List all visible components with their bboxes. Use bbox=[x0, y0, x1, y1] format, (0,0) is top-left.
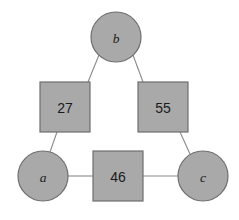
edge-55-to-c bbox=[180, 132, 190, 154]
weight-box-46[interactable]: 46 bbox=[93, 151, 143, 201]
node-a-label: a bbox=[40, 170, 47, 185]
weight-box-55-label: 55 bbox=[155, 100, 171, 116]
node-b[interactable]: b bbox=[91, 12, 141, 62]
edge-b-to-27 bbox=[88, 55, 99, 82]
weight-box-27[interactable]: 27 bbox=[40, 82, 90, 132]
diagram-canvas: b 27 55 a 46 c bbox=[0, 0, 239, 220]
node-c[interactable]: c bbox=[178, 151, 228, 201]
weight-box-55[interactable]: 55 bbox=[138, 82, 188, 132]
edge-27-to-a bbox=[50, 132, 57, 152]
edge-b-to-55 bbox=[133, 55, 143, 82]
weight-box-46-label: 46 bbox=[110, 169, 126, 185]
node-b-label: b bbox=[113, 31, 120, 46]
weighted-graph-diagram: b 27 55 a 46 c bbox=[0, 0, 239, 220]
node-a[interactable]: a bbox=[18, 151, 68, 201]
node-c-label: c bbox=[200, 170, 206, 185]
weight-box-27-label: 27 bbox=[57, 100, 73, 116]
